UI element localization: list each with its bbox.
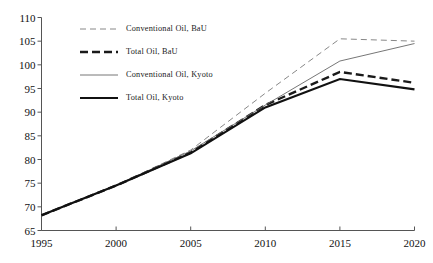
x-tick-label: 2005 — [180, 237, 203, 249]
y-tick-label: 75 — [25, 177, 37, 189]
legend-label-2: Total Oil, BaU — [126, 47, 178, 56]
series-line-total-oil-kyoto — [42, 79, 415, 215]
y-tick-label: 95 — [25, 83, 37, 95]
x-tick-label: 2015 — [329, 237, 352, 249]
x-tick-label: 1995 — [31, 237, 54, 249]
chart-canvas: 65707580859095100105110 1995200020052010… — [0, 0, 433, 263]
y-tick-label: 85 — [25, 130, 37, 142]
y-tick-label: 65 — [25, 225, 37, 237]
y-tick-label: 110 — [19, 12, 36, 24]
chart-legend: Conventional Oil, BaUTotal Oil, BaUConve… — [80, 24, 213, 102]
y-axis-ticks: 65707580859095100105110 — [19, 12, 42, 237]
x-axis-ticks: 199520002005201020152020 — [31, 227, 427, 249]
y-tick-label: 80 — [25, 154, 37, 166]
data-series-group — [42, 39, 415, 216]
series-line-conventional-oil-bau — [42, 39, 415, 216]
x-tick-label: 2010 — [254, 237, 277, 249]
x-tick-label: 2000 — [105, 237, 128, 249]
y-tick-label: 70 — [25, 201, 37, 213]
y-tick-label: 90 — [25, 106, 37, 118]
legend-label-4: Total Oil, Kyoto — [126, 93, 184, 102]
y-tick-label: 100 — [19, 59, 36, 71]
y-tick-label: 105 — [19, 35, 36, 47]
legend-label-3: Conventional Oil, Kyoto — [126, 70, 213, 79]
line-chart: 65707580859095100105110 1995200020052010… — [0, 0, 433, 263]
x-tick-label: 2020 — [404, 237, 427, 249]
legend-label-1: Conventional Oil, BaU — [126, 24, 207, 33]
